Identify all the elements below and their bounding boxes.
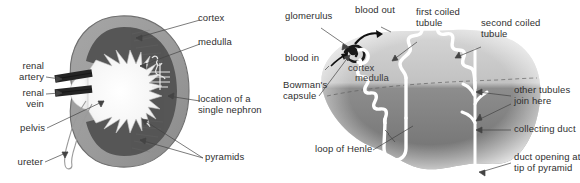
label-medulla: medulla bbox=[198, 37, 232, 48]
label-cortex: cortex bbox=[198, 13, 224, 24]
label-collecting-duct: collecting duct bbox=[514, 124, 576, 135]
label-other-tubules-join-here: other tubules join here bbox=[514, 85, 570, 106]
label-glomerulus: glomerulus bbox=[285, 11, 332, 22]
label-bowmans-capsule: Bowman's capsule bbox=[283, 80, 327, 101]
label-blood-out: blood out bbox=[355, 5, 395, 16]
label-location-single-nephron: location of a single nephron bbox=[198, 94, 262, 115]
nephron-detail-panel: glomerulus blood out first coiled tubule… bbox=[285, 0, 579, 183]
label-second-coiled-tubule: second coiled tubule bbox=[481, 18, 540, 39]
label-blood-in: blood in bbox=[285, 53, 319, 64]
label-loop-of-henle: loop of Henle bbox=[315, 144, 372, 155]
label-pelvis: pelvis bbox=[0, 123, 45, 134]
kidney-cross-section-panel: cortex medulla renal artery renal vein l… bbox=[0, 0, 290, 183]
label-medulla-inner: medulla bbox=[355, 73, 389, 84]
label-pyramids: pyramids bbox=[205, 152, 244, 163]
label-renal-artery: renal artery bbox=[0, 61, 44, 82]
label-ureter: ureter bbox=[0, 157, 43, 168]
label-first-coiled-tubule: first coiled tubule bbox=[416, 7, 460, 28]
label-duct-opening: duct opening at tip of pyramid bbox=[514, 152, 580, 173]
label-renal-vein: renal vein bbox=[0, 88, 44, 109]
